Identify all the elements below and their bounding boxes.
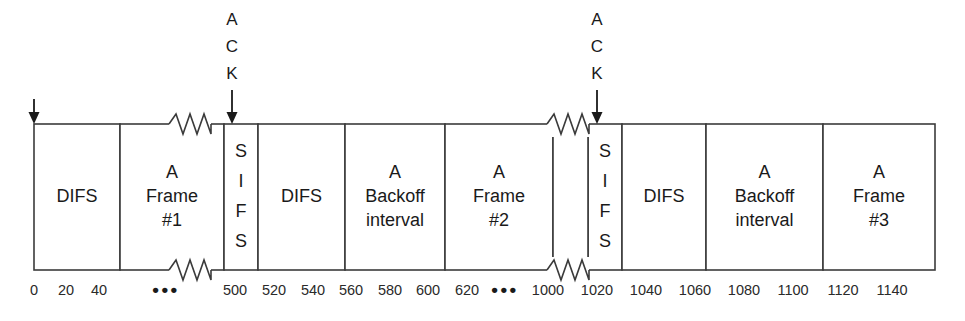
- ack-arrow-1: [227, 90, 238, 124]
- axis-tick-1100: 1100: [777, 282, 808, 298]
- ack-arrow-1-head: [227, 112, 238, 124]
- ack-annotations: ACKACK: [226, 10, 603, 83]
- segment-backoff-2: ABackoffinterval: [706, 124, 823, 270]
- timing-diagram-canvas: DIFSAFrame#1SIFSDIFSABackoffintervalAFra…: [0, 0, 965, 321]
- segment-label-difs-2-line0: DIFS: [281, 186, 322, 206]
- axis-tick-20: 20: [58, 282, 74, 298]
- segment-label-frame-1-line2: #1: [162, 210, 182, 230]
- axis-tick-labels: 02040•••500520540560580600620•••10001020…: [30, 279, 908, 300]
- start-arrow: [29, 99, 40, 124]
- axis-ellipsis-11: •••: [491, 279, 518, 300]
- segment-label-sifs-2-line2: F: [600, 201, 611, 221]
- segment-label-sifs-2-line3: S: [599, 231, 611, 251]
- segment-box-frame-1-tail: [553, 124, 588, 270]
- segment-label-frame-3-line1: Frame: [853, 186, 905, 206]
- ack-arrow-2: [592, 90, 603, 124]
- segment-backoff-1: ABackoffinterval: [345, 124, 445, 270]
- segment-frame-1: AFrame#1: [120, 124, 224, 270]
- segment-label-sifs-2-line0: S: [599, 141, 611, 161]
- axis-tick-1000: 1000: [532, 282, 564, 298]
- segment-label-sifs-1-line2: F: [236, 201, 247, 221]
- segment-difs-3: DIFS: [622, 124, 706, 270]
- axis-tick-600: 600: [416, 282, 440, 298]
- timing-diagram: DIFSAFrame#1SIFSDIFSABackoffintervalAFra…: [0, 0, 965, 321]
- segment-label-difs-1-line0: DIFS: [56, 186, 97, 206]
- axis-tick-40: 40: [91, 282, 107, 298]
- segment-label-frame-2-line0: A: [493, 162, 505, 182]
- axis-tick-620: 620: [455, 282, 479, 298]
- segment-label-sifs-1-line1: I: [238, 171, 243, 191]
- axis-ellipsis-3: •••: [152, 279, 179, 300]
- segment-label-backoff-1-line0: A: [389, 162, 401, 182]
- axis-tick-1040: 1040: [630, 282, 662, 298]
- segment-difs-1: DIFS: [34, 124, 120, 270]
- axis-tick-560: 560: [339, 282, 363, 298]
- segment-label-frame-1-line0: A: [166, 162, 178, 182]
- segment-label-frame-2-line1: Frame: [473, 186, 525, 206]
- segment-label-sifs-1-line0: S: [235, 141, 247, 161]
- axis-tick-520: 520: [262, 282, 286, 298]
- ack-label-1: ACK: [226, 10, 238, 83]
- segment-frame-3: AFrame#3: [823, 124, 935, 270]
- axis-tick-540: 540: [301, 282, 325, 298]
- segment-label-backoff-1-line1: Backoff: [365, 186, 426, 206]
- axis-tick-500: 500: [223, 282, 247, 298]
- segment-label-backoff-1-line2: interval: [366, 210, 424, 230]
- segment-label-frame-2-line2: #2: [489, 210, 509, 230]
- axis-tick-1120: 1120: [827, 282, 858, 298]
- axis-tick-1140: 1140: [876, 282, 907, 298]
- axis-tick-580: 580: [378, 282, 402, 298]
- segment-frame-1-tail: [553, 124, 588, 270]
- segment-difs-2: DIFS: [258, 124, 345, 270]
- segment-label-difs-3-line0: DIFS: [643, 186, 684, 206]
- ack-label-1-line1: C: [226, 37, 238, 56]
- segment-label-frame-3-line0: A: [873, 162, 885, 182]
- segment-label-backoff-2-line1: Backoff: [735, 186, 796, 206]
- ack-label-2-line2: K: [591, 64, 603, 83]
- segment-boxes: DIFSAFrame#1SIFSDIFSABackoffintervalAFra…: [34, 124, 935, 270]
- ack-label-2-line0: A: [591, 10, 603, 29]
- segment-label-frame-1-line1: Frame: [146, 186, 198, 206]
- segment-frame-2: AFrame#2: [445, 124, 553, 270]
- ack-label-1-line2: K: [226, 64, 238, 83]
- segment-sifs-1: SIFS: [224, 124, 258, 270]
- segment-label-backoff-2-line2: interval: [735, 210, 793, 230]
- ack-label-2: ACK: [591, 10, 603, 83]
- segment-label-backoff-2-line0: A: [758, 162, 770, 182]
- segment-label-sifs-2-line1: I: [602, 171, 607, 191]
- axis-tick-1060: 1060: [679, 282, 711, 298]
- segment-label-frame-3-line2: #3: [869, 210, 889, 230]
- segment-label-sifs-1-line3: S: [235, 231, 247, 251]
- ack-label-1-line0: A: [226, 10, 238, 29]
- event-arrows: [29, 90, 603, 124]
- axis-tick-0: 0: [30, 282, 38, 298]
- ack-label-2-line1: C: [591, 37, 603, 56]
- axis-tick-1080: 1080: [728, 282, 760, 298]
- start-arrow-head: [29, 112, 40, 124]
- segment-sifs-2: SIFS: [588, 124, 622, 270]
- axis-tick-1020: 1020: [581, 282, 613, 298]
- ack-arrow-2-head: [592, 112, 603, 124]
